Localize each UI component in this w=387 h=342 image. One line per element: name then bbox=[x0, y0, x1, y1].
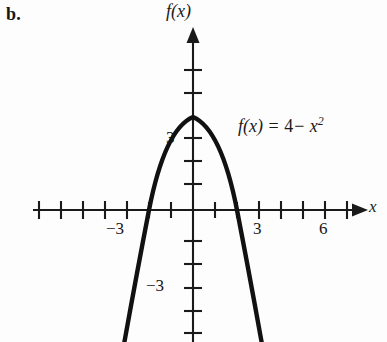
equation-equals: = bbox=[267, 116, 279, 136]
y-tick-label-neg3: −3 bbox=[146, 276, 164, 296]
y-axis-arrowhead bbox=[187, 27, 200, 43]
x-tick-label-6: 6 bbox=[319, 219, 328, 239]
equation-exponent: 2 bbox=[318, 114, 324, 128]
y-tick-label-3: 3 bbox=[166, 128, 175, 148]
x-tick-label-neg3: −3 bbox=[106, 219, 124, 239]
y-axis-label: f(x) bbox=[166, 1, 191, 22]
equation-minus: − bbox=[293, 116, 305, 136]
equation-variable: x bbox=[310, 116, 318, 136]
equation-lhs: f(x) bbox=[238, 116, 263, 136]
figure-container: b. bbox=[0, 0, 387, 342]
equation-annotation: f(x) = 4− x2 bbox=[238, 116, 324, 137]
x-axis-arrowhead bbox=[352, 204, 368, 217]
equation-constant: 4 bbox=[284, 116, 293, 136]
x-axis-label: x bbox=[369, 197, 377, 217]
x-tick-label-3: 3 bbox=[253, 219, 262, 239]
parabola-plot bbox=[0, 0, 387, 342]
